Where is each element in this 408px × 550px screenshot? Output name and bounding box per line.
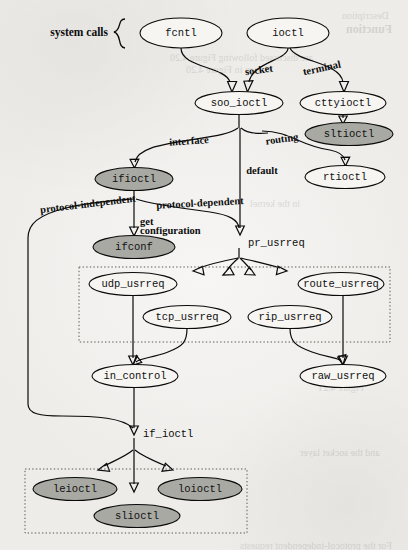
node-label-ioctl: ioctl [272,27,304,39]
node-ifconf[interactable]: ifconf [93,236,175,259]
ioctl-flow-diagram: system calls fcntl ioctl soo_ioctl cttyi… [0,0,408,550]
edge-label-configuration: configuration [140,225,201,236]
edge-label-layer: socket terminal interface routing defaul… [40,59,342,440]
system-calls-brace [114,19,125,48]
edge-label-protocol-dependent: protocol-dependent [156,195,244,211]
node-raw_usrreq[interactable]: raw_usrreq [300,365,386,388]
node-ifioctl[interactable]: ifioctl [95,168,173,191]
node-rip_usrreq[interactable]: rip_usrreq [248,306,332,329]
arrowhead-ioctl-to-cttyioctl [340,82,349,93]
arrowhead-ioctl-to-soo_ioctl [244,81,253,92]
arrowhead-sltioctl-to-rtioctl [341,157,350,166]
edge-label-socket: socket [244,62,274,77]
node-ioctl[interactable]: ioctl [247,18,329,48]
group-label-system-calls: system calls [50,26,108,39]
edge-label-pr_usrreq: pr_usrreq [248,237,305,249]
node-label-sltioctl: sltioctl [324,128,374,140]
edge-label-interface: interface [169,134,210,148]
node-label-loioctl: loioctl [178,483,222,495]
node-label-soo_ioctl: soo_ioctl [211,97,268,109]
edge-tcp_usrreq-to-in_control [136,329,187,363]
edge-label-default: default [246,165,278,176]
edge-ifioctl-protocol-independent [28,199,133,428]
node-label-tcp_usrreq: tcp_usrreq [155,311,218,323]
arrowhead-pr_usrreq-to-udp_usrreq [193,266,204,274]
node-udp_usrreq[interactable]: udp_usrreq [89,273,177,296]
edge-fcntl-to-soo_ioctl [181,48,230,82]
arrowhead-pr_usrreq-to-tcp_usrreq [223,267,234,275]
node-fcntl[interactable]: fcntl [140,18,222,48]
node-cttyioctl[interactable]: cttyioctl [300,92,386,115]
arrowhead-pr_usrreq-to-rip_usrreq [245,267,255,275]
edge-label-terminal: terminal [302,59,342,78]
figure-canvas: FunctionDescriptionare discussed followi… [0,0,408,550]
node-label-cttyioctl: cttyioctl [315,97,372,109]
node-leioctl[interactable]: leioctl [33,478,117,501]
node-route_usrreq[interactable]: route_usrreq [298,273,384,296]
node-label-udp_usrreq: udp_usrreq [101,278,164,290]
node-label-ifioctl: ifioctl [112,173,156,185]
node-label-slioctl: slioctl [115,510,159,522]
arrowhead-ifioctl-to-ifconf [130,227,139,236]
node-label-ifconf: ifconf [115,241,153,253]
edge-label-routing: routing [265,131,300,147]
arrowhead-fcntl-to-soo_ioctl [228,82,237,93]
arrowhead-soo_ioctl-to-ifioctl [130,159,139,168]
node-label-raw_usrreq: raw_usrreq [311,370,374,382]
node-in_control[interactable]: in_control [92,365,178,388]
node-label-fcntl: fcntl [165,27,197,39]
node-label-route_usrreq: route_usrreq [303,278,379,290]
edge-layer [28,48,350,492]
edge-if_ioctl-to-leioctl [104,450,133,466]
arrowhead-if_ioctl-to-slioctl [130,483,139,492]
edge-rip_usrreq-to-raw_usrreq [290,329,341,362]
node-loioctl[interactable]: loioctl [158,478,242,501]
node-label-leioctl: leioctl [53,483,97,495]
node-sltioctl[interactable]: sltioctl [305,123,393,146]
node-label-rtioctl: rtioctl [323,171,367,183]
node-label-rip_usrreq: rip_usrreq [258,311,321,323]
system-calls-group: system calls [50,19,125,48]
node-label-in_control: in_control [103,370,166,382]
edge-label-protocol-independent: protocol-independent [40,193,137,216]
node-soo_ioctl[interactable]: soo_ioctl [195,92,283,115]
node-layer: fcntl ioctl soo_ioctl cttyioctl sltioctl [33,18,393,528]
edge-pr_usrreq-to-udp_usrreq [199,258,238,268]
node-tcp_usrreq[interactable]: tcp_usrreq [143,306,231,329]
edge-if_ioctl-to-loioctl [135,450,166,466]
node-slioctl[interactable]: slioctl [94,505,180,528]
node-rtioctl[interactable]: rtioctl [305,166,385,189]
edge-label-if_ioctl: if_ioctl [143,428,193,440]
